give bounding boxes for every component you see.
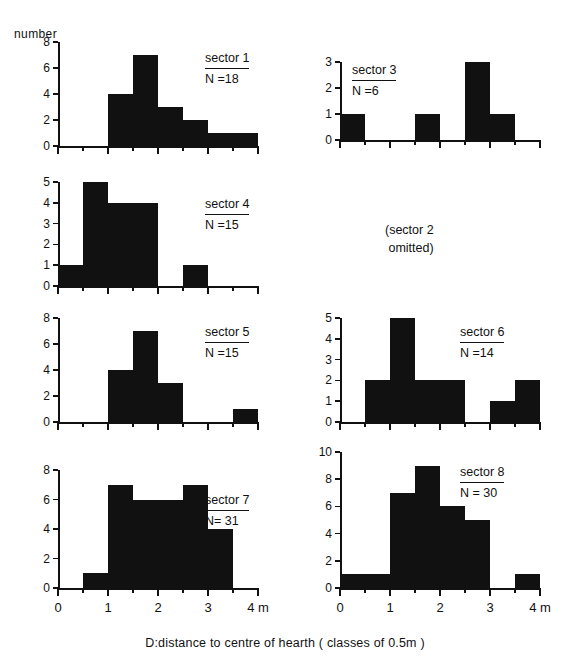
y-tick-label: 6 <box>43 493 50 507</box>
y-axis-line <box>58 470 60 588</box>
x-tick-label: 2 <box>154 600 161 615</box>
y-tick-label: 0 <box>325 133 332 147</box>
y-tick-label: 0 <box>325 415 332 429</box>
x-tick <box>257 286 259 294</box>
histogram-bar <box>340 114 365 140</box>
histogram-bar <box>158 107 183 146</box>
x-tick <box>232 588 234 593</box>
histogram-figure: number 024680123012345024680123450246801… <box>0 0 570 669</box>
x-tick-label: 0 <box>54 600 61 615</box>
y-tick-label: 0 <box>325 581 332 595</box>
histogram-bar <box>233 409 258 422</box>
sector-label-sector4: sector 4N =15 <box>205 196 249 234</box>
histogram-bar <box>133 55 158 146</box>
y-tick-label: 4 <box>325 332 332 346</box>
histogram-bar <box>158 500 183 589</box>
y-tick <box>335 478 340 480</box>
panel-sector6: 012345 <box>340 318 540 422</box>
x-tick-label: 0 <box>336 600 343 615</box>
y-tick-label: 10 <box>319 445 332 459</box>
x-tick <box>57 422 59 430</box>
y-tick <box>335 400 340 402</box>
y-tick-label: 2 <box>43 389 50 403</box>
x-tick <box>514 422 516 427</box>
x-tick <box>439 140 441 148</box>
x-tick <box>414 422 416 427</box>
histogram-bar <box>415 380 440 422</box>
y-tick-label: 2 <box>43 113 50 127</box>
x-tick-label: 3 <box>486 600 493 615</box>
y-tick <box>53 119 58 121</box>
sector-count: N =6 <box>352 81 396 100</box>
histogram-bar <box>133 500 158 589</box>
x-tick <box>157 588 159 596</box>
x-tick <box>414 588 416 593</box>
x-tick <box>414 140 416 145</box>
sector-count: N =15 <box>205 343 249 362</box>
x-tick <box>132 286 134 291</box>
y-tick <box>53 558 58 560</box>
x-tick <box>82 588 84 593</box>
y-tick <box>53 469 58 471</box>
y-tick <box>335 338 340 340</box>
x-tick <box>489 422 491 430</box>
y-tick-label: 2 <box>325 81 332 95</box>
sector-count: N =18 <box>205 69 249 88</box>
sector-label-sector8: sector 8N = 30 <box>460 464 504 502</box>
x-tick <box>82 286 84 291</box>
x-tick <box>107 588 109 596</box>
sector-name: sector 1 <box>205 50 249 69</box>
x-tick-label: 4 m <box>247 600 269 615</box>
y-tick <box>335 560 340 562</box>
x-tick <box>182 422 184 427</box>
sector-2-omitted-note: (sector 2 omitted) <box>385 222 434 257</box>
histogram-bar <box>340 574 365 588</box>
histogram-bar <box>415 114 440 140</box>
y-tick-label: 0 <box>43 139 50 153</box>
x-tick <box>107 422 109 430</box>
x-tick <box>57 146 59 154</box>
histogram-bar <box>233 133 258 146</box>
y-tick-label: 6 <box>43 337 50 351</box>
x-tick <box>364 140 366 145</box>
sector-count: N = 30 <box>460 483 504 502</box>
sector-label-sector1: sector 1N =18 <box>205 50 249 88</box>
x-tick <box>132 146 134 151</box>
y-tick <box>335 380 340 382</box>
histogram-bar <box>515 380 540 422</box>
sector-name: sector 7 <box>205 492 249 511</box>
y-tick-label: 1 <box>43 258 50 272</box>
x-tick <box>539 140 541 148</box>
histogram-bar <box>83 182 108 286</box>
y-tick-label: 4 <box>43 87 50 101</box>
x-tick <box>514 140 516 145</box>
y-tick-label: 2 <box>43 237 50 251</box>
histogram-bar <box>490 401 515 422</box>
plot-area-sector6: 012345 <box>340 318 540 422</box>
y-tick-label: 4 <box>43 363 50 377</box>
histogram-bar <box>108 203 133 286</box>
x-tick <box>339 140 341 148</box>
histogram-bar <box>390 493 415 588</box>
y-tick-label: 4 <box>43 522 50 536</box>
x-tick <box>339 422 341 430</box>
y-tick <box>335 451 340 453</box>
x-tick <box>182 588 184 593</box>
histogram-bar <box>83 573 108 588</box>
y-tick-label: 5 <box>43 175 50 189</box>
y-tick-label: 3 <box>325 55 332 69</box>
y-axis-line <box>340 452 342 588</box>
sector-count: N =15 <box>205 215 249 234</box>
panel-sector8: 024681001234 m <box>340 452 540 588</box>
x-tick-label: 2 <box>436 600 443 615</box>
y-tick <box>53 67 58 69</box>
y-tick-label: 5 <box>325 311 332 325</box>
y-tick <box>53 499 58 501</box>
histogram-bar <box>108 94 133 146</box>
y-axis-line <box>58 318 60 422</box>
sector-label-sector3: sector 3N =6 <box>352 62 396 100</box>
x-tick <box>232 286 234 291</box>
y-tick <box>335 506 340 508</box>
y-tick <box>53 369 58 371</box>
y-axis-line <box>58 42 60 146</box>
